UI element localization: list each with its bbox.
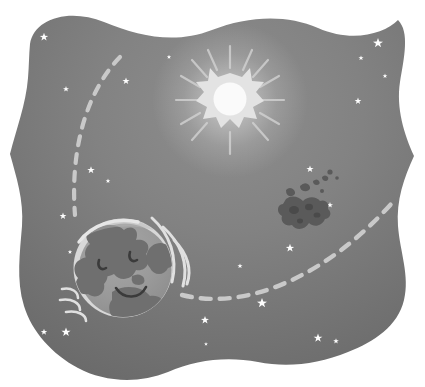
asteroid-fragment [327, 169, 332, 174]
illustration-canvas [0, 0, 425, 387]
star [258, 368, 263, 372]
star [398, 215, 403, 220]
star [373, 359, 380, 366]
asteroid-fragment [320, 189, 324, 193]
star [338, 359, 344, 365]
space-scene-svg [0, 0, 425, 387]
asteroid-fragment [335, 176, 339, 180]
sun-core [214, 83, 247, 116]
